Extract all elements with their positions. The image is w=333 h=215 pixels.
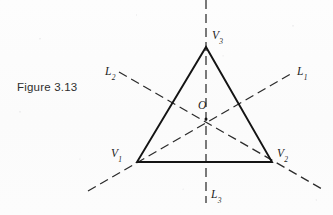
axis-label-l2-sub: 2 bbox=[112, 73, 116, 82]
axis-label-l3: L3 bbox=[211, 189, 221, 201]
vertex-label-v1: V1 bbox=[111, 148, 122, 160]
axis-label-l3-sub: 3 bbox=[218, 196, 222, 205]
vertex-label-v3: V3 bbox=[212, 30, 223, 42]
vertex-label-v1-sub: 1 bbox=[118, 155, 122, 164]
axis-label-l2-text: L bbox=[105, 65, 111, 77]
axis-label-l1-sub: 1 bbox=[304, 73, 308, 82]
dashed-line-l1 bbox=[88, 72, 294, 191]
axis-label-l3-text: L bbox=[211, 188, 217, 200]
center-label-o-text: O bbox=[198, 99, 206, 111]
vertex-label-v3-text: V bbox=[212, 29, 219, 41]
axis-label-l1-text: L bbox=[297, 65, 303, 77]
vertex-label-v1-text: V bbox=[111, 147, 118, 159]
axis-label-l1: L1 bbox=[297, 66, 307, 78]
axis-label-l2: L2 bbox=[105, 66, 115, 78]
dashed-line-l2 bbox=[119, 72, 322, 189]
figure-caption: Figure 3.13 bbox=[17, 81, 77, 93]
vertex-label-v2-sub: 2 bbox=[284, 155, 288, 164]
center-label-o: O bbox=[198, 100, 206, 112]
figure-page: Figure 3.13 V3 V1 V2 O L1 L2 L3 bbox=[0, 0, 333, 215]
vertex-label-v2: V2 bbox=[277, 148, 288, 160]
vertex-label-v3-sub: 3 bbox=[219, 37, 223, 46]
geometry-diagram bbox=[0, 0, 333, 215]
vertex-label-v2-text: V bbox=[277, 147, 284, 159]
center-point-o bbox=[205, 118, 208, 121]
